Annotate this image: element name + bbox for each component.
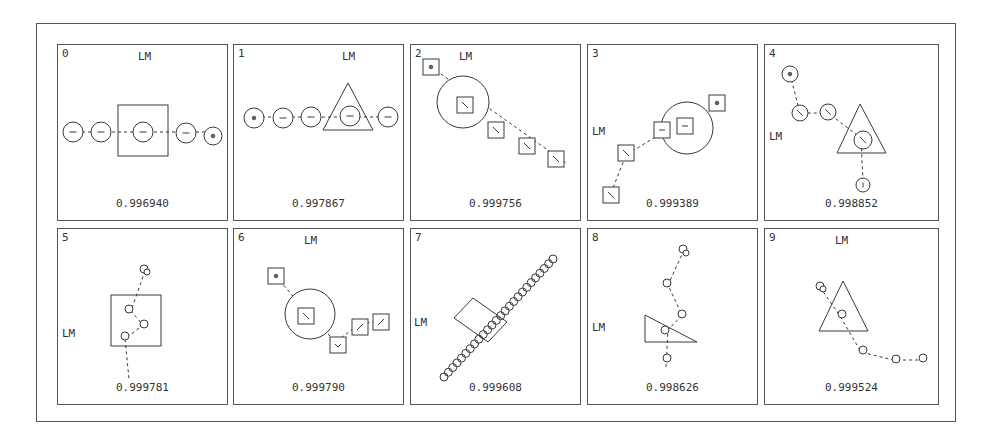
state-circle	[453, 359, 461, 367]
state-circle	[820, 286, 826, 292]
state-circle	[479, 331, 487, 339]
panel-8: 8 LM 0.998626	[587, 228, 758, 405]
state-circle	[514, 293, 522, 301]
state-square	[330, 337, 346, 353]
trajectory-path	[820, 287, 923, 360]
panel-1: 1 LM 0.997867	[233, 44, 404, 221]
score-value: 0.999608	[411, 381, 580, 394]
state-circle	[536, 269, 544, 277]
state-circle	[892, 355, 900, 363]
score-value: 0.999389	[588, 197, 757, 210]
center-dot-icon	[252, 116, 256, 120]
state-circle	[492, 316, 500, 324]
landmark-shape	[645, 315, 697, 342]
score-value: 0.998626	[588, 381, 757, 394]
state-circle	[545, 260, 553, 268]
panel-9: 9 LM 0.999524	[764, 228, 939, 405]
score-value: 0.998852	[765, 197, 938, 210]
state-circle	[919, 354, 927, 362]
state-circle	[838, 310, 846, 318]
center-dot-icon	[788, 72, 792, 76]
trajectory-plot	[765, 45, 939, 221]
trajectory-plot	[234, 229, 404, 405]
panel-7: 7 LM 0.999608	[410, 228, 581, 405]
state-circle	[540, 264, 548, 272]
score-value: 0.999790	[234, 381, 403, 394]
state-circle	[663, 279, 671, 287]
trajectory-plot	[411, 229, 581, 405]
state-circle	[462, 349, 470, 357]
center-dot-icon	[274, 274, 278, 278]
trajectory-path	[790, 74, 863, 181]
state-circle	[471, 340, 479, 348]
panel-3: 3 LM 0.999389	[587, 44, 758, 221]
center-dot-icon	[715, 101, 719, 105]
state-circle	[678, 310, 686, 318]
panel-2: 2 LM 0.999756	[410, 44, 581, 221]
trajectory-plot	[58, 45, 228, 221]
score-value: 0.997867	[234, 197, 403, 210]
state-circle	[449, 364, 457, 372]
trajectory-plot	[588, 45, 758, 221]
state-circle	[661, 326, 669, 334]
state-circle	[140, 320, 148, 328]
state-circle	[125, 305, 133, 313]
score-value: 0.999524	[765, 381, 938, 394]
state-circle	[144, 269, 150, 275]
state-circle	[532, 274, 540, 282]
trajectory-plot	[588, 229, 758, 405]
state-circle	[475, 335, 483, 343]
state-circle	[663, 354, 671, 362]
trajectory-plot	[58, 229, 228, 405]
state-circle	[484, 326, 492, 334]
score-value: 0.996940	[58, 197, 227, 210]
state-circle	[518, 288, 526, 296]
score-value: 0.999756	[411, 197, 580, 210]
panel-5: 5 LM 0.999781	[57, 228, 228, 405]
state-circle	[523, 283, 531, 291]
state-circle	[549, 255, 557, 263]
landmark-square	[111, 295, 161, 346]
state-circle	[444, 368, 452, 376]
panel-6: 6 LM 0.999790	[233, 228, 404, 405]
state-circle	[457, 354, 465, 362]
center-dot-icon	[429, 65, 433, 69]
state-circle	[440, 373, 448, 381]
trajectory-plot	[765, 229, 939, 405]
state-circle	[501, 307, 509, 315]
trajectory-path	[666, 250, 684, 367]
score-value: 0.999781	[58, 381, 227, 394]
trajectory-plot	[411, 45, 581, 221]
trajectory-plot	[234, 45, 404, 221]
state-circle	[488, 321, 496, 329]
state-circle	[510, 297, 518, 305]
state-circle	[859, 346, 867, 354]
state-circle	[527, 279, 535, 287]
panel-0: 0 LM 0.996940	[57, 44, 228, 221]
state-circle	[121, 332, 129, 340]
state-circle	[683, 250, 689, 256]
center-dot-icon	[211, 134, 215, 138]
state-circle	[505, 302, 513, 310]
state-circle	[466, 345, 474, 353]
panel-4: 4 LM 0.998852	[764, 44, 939, 221]
